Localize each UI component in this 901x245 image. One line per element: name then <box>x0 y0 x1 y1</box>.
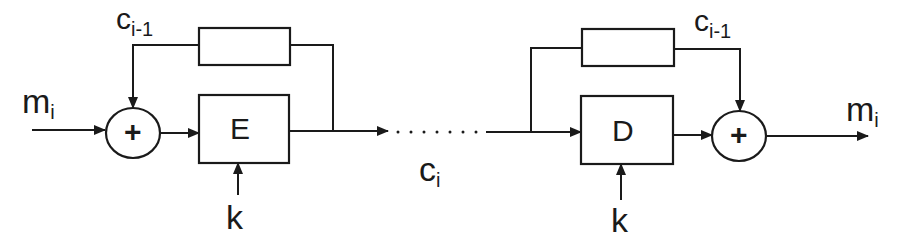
feedback-arrow-encrypt <box>133 45 199 108</box>
cbc-diagram: mi ci-1 + E k ci ci-1 D + mi k <box>0 0 901 245</box>
feedback-tap-decrypt <box>531 48 582 132</box>
key-label-decrypt: k <box>611 203 628 237</box>
channel-dots <box>397 131 478 134</box>
xor-symbol-decrypt: + <box>730 120 748 150</box>
input-label-m: mi <box>22 84 55 118</box>
encrypt-block-label: E <box>230 114 250 144</box>
decrypt-block-label: D <box>612 116 634 146</box>
feedback-arrow-decrypt <box>674 49 740 111</box>
feedback-label-decrypt: ci-1 <box>694 6 731 36</box>
feedback-tap-encrypt <box>290 45 333 131</box>
feedback-label-encrypt: ci-1 <box>116 4 153 34</box>
output-label-m: mi <box>846 92 879 126</box>
delay-register-encrypt <box>199 28 290 65</box>
key-label-encrypt: k <box>226 200 243 234</box>
xor-symbol-encrypt: + <box>124 117 142 147</box>
ciphertext-label: ci <box>419 152 440 186</box>
delay-register-decrypt <box>582 29 674 66</box>
